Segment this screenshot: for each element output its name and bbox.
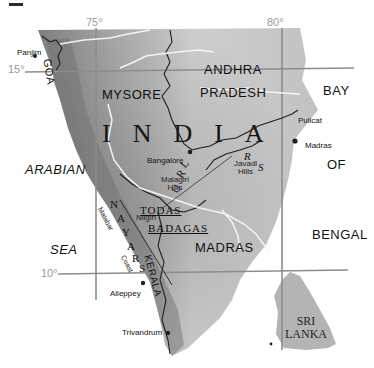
people-label-todas: TODAS [140,205,181,216]
state-label-pradesh: PRADESH [200,86,266,99]
people-letter-irulas-5: S [258,162,265,173]
latitude-label-15: 15° [8,64,25,75]
country-label-india: INDIA [102,121,286,147]
people-letter-nayars-1: N [110,199,119,210]
city-label-pulicat: Pulicat [298,117,322,125]
state-label-andhra: ANDHRA [204,63,262,76]
feature-label-javadi-hills: Javadi Hills [234,160,257,177]
longitude-label-80: 80° [267,17,284,28]
longitude-label-75: 75° [86,17,103,28]
city-label-alleppey: Alleppey [110,290,141,298]
country-label-sri-lanka: SRI LANKA [285,315,327,341]
city-label-panjim: Panjim [17,49,41,57]
state-label-madras: MADRAS [195,241,254,254]
sea-label-bay: BAY [323,84,350,97]
city-label-trivandrum: Trivandrum [122,329,162,337]
people-label-badagas: BADAGAS [148,223,208,234]
people-letter-nayars-3: Y [122,227,131,238]
sea-label-of: OF [327,158,346,171]
sea-label-sea: SEA [50,243,78,256]
latitude-label-10: 10° [41,268,58,279]
state-label-mysore: MYSORE [102,88,161,101]
people-letter-nayars-2: A [117,213,126,224]
people-letter-nayars-6: S [139,263,146,274]
people-letter-irulas-4: R [244,151,252,162]
city-label-madras: Madras [305,142,332,150]
people-letter-nayars-4: A [127,241,136,252]
sea-label-arabian: ARABIAN [25,163,86,176]
corner-marker [9,3,23,6]
sea-label-bengal: BENGAL [312,228,368,241]
